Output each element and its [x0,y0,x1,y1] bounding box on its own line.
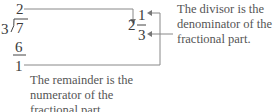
mixed-denominator: 3 [138,28,146,43]
remainder: 1 [15,59,23,74]
divisor-note-line: fractional part. [177,32,275,47]
remainder-note-line: fractional part. [30,103,170,112]
mixed-numerator: 1 [138,8,146,23]
divisor-note-line: The divisor is the [177,2,275,17]
mixed-whole: 2 [128,18,136,33]
product: 6 [15,40,23,55]
quotient: 2 [16,2,24,17]
remainder-note-line: The remainder is the [30,73,170,88]
divisor: 3 [1,22,9,37]
divisor-note-line: denominator of the [177,17,275,32]
divisor-note: The divisor is the denominator of the fr… [177,2,275,47]
remainder-note: The remainder is the numerator of the fr… [30,73,170,112]
dividend: 7 [16,21,24,36]
remainder-note-line: numerator of the [30,88,170,103]
